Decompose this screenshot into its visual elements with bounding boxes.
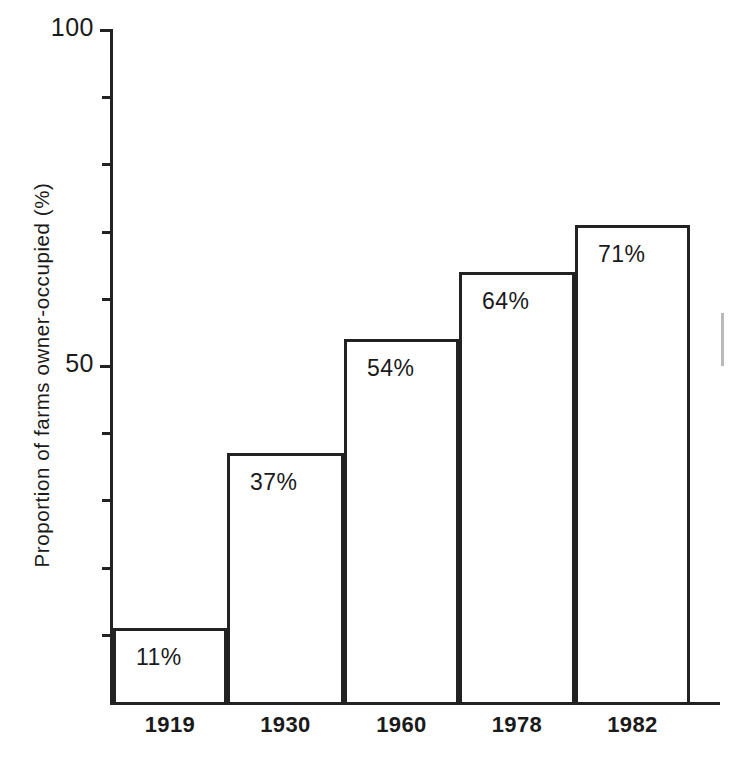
y-axis-tick-50 bbox=[100, 365, 113, 368]
scan-artifact-mark bbox=[721, 313, 724, 366]
y-axis-tick-70 bbox=[102, 231, 113, 234]
y-axis-tick-20 bbox=[102, 567, 113, 570]
bar-value-label-1919: 11% bbox=[136, 644, 182, 671]
x-axis-label-1960: 1960 bbox=[344, 712, 459, 738]
y-axis-tick-100 bbox=[100, 29, 113, 32]
bar-value-label-1930: 37% bbox=[250, 469, 297, 496]
y-axis-tick-90 bbox=[102, 96, 113, 99]
bar-chart: Proportion of farms owner-occupied (%) 1… bbox=[0, 0, 735, 760]
y-axis-label-50: 50 bbox=[30, 349, 94, 378]
bar-value-label-1982: 71% bbox=[598, 241, 645, 268]
x-axis-label-1978: 1978 bbox=[459, 712, 575, 738]
y-axis-tick-30 bbox=[102, 499, 113, 502]
y-axis-label-100: 100 bbox=[30, 13, 94, 42]
x-axis-label-1982: 1982 bbox=[575, 712, 690, 738]
x-axis-label-1930: 1930 bbox=[227, 712, 344, 738]
bar-1982[interactable] bbox=[575, 225, 690, 705]
bar-1978[interactable] bbox=[459, 272, 575, 705]
x-axis-label-1919: 1919 bbox=[113, 712, 227, 738]
x-axis-line bbox=[110, 702, 720, 705]
y-axis-tick-80 bbox=[102, 163, 113, 166]
y-axis-tick-40 bbox=[102, 432, 113, 435]
bar-value-label-1960: 54% bbox=[367, 355, 414, 382]
y-axis-tick-10 bbox=[102, 634, 113, 637]
bar-value-label-1978: 64% bbox=[482, 288, 529, 315]
bar-1960[interactable] bbox=[344, 339, 459, 705]
y-axis-tick-60 bbox=[102, 298, 113, 301]
